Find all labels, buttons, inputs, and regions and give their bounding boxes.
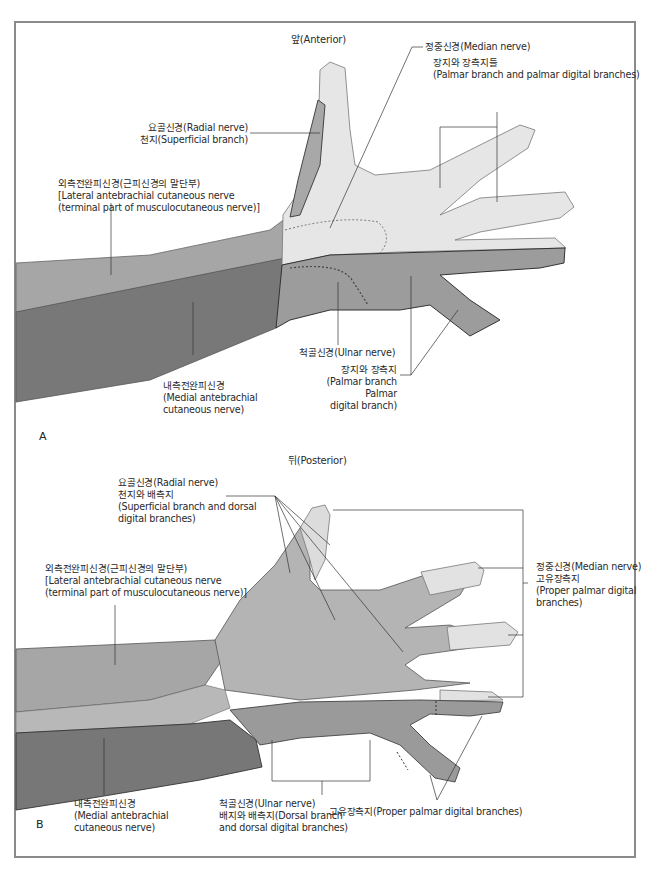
- label-ulnar-branches-a: 장지와 장측지 (Palmar branch Palmar digital br…: [297, 364, 397, 412]
- label-radial-nerve-a: 요골신경(Radial nerve) 천지(Superficial branch…: [130, 122, 248, 146]
- label-ulnar-proper-b: 고유장측지(Proper palmar digital branches): [329, 806, 522, 818]
- medial-antebrachial-zone-b: [16, 720, 262, 810]
- panel-letter-b: B: [36, 818, 44, 831]
- middle-tip-b: [447, 622, 518, 650]
- ulnar-zone-dorsum-b: [230, 700, 503, 782]
- label-median-branches-a: 장지와 장측지들 (Palmar branch and palmar digit…: [433, 57, 639, 81]
- label-medial-antebrachial-b: 내측전완피신경 (Medial antebrachial cutaneous n…: [74, 798, 168, 834]
- label-median-nerve-b: 정중신경(Median nerve) 고유장측지 (Proper palmar …: [536, 561, 641, 609]
- label-lateral-antebrachial-b: 외측전완피신경(근피신경의 말단부) [Lateral antebrachial…: [45, 563, 247, 599]
- posterior-hand: [16, 505, 518, 810]
- pinky-dashed-b: [397, 752, 408, 770]
- posterior-title: 뒤(Posterior): [288, 455, 347, 467]
- median-zone-palm-a: [282, 62, 574, 265]
- label-radial-nerve-b: 요골신경(Radial nerve) 천지와 배측지 (Superficial …: [118, 477, 256, 525]
- panel-letter-a: A: [39, 430, 47, 443]
- label-lateral-antebrachial-a: 외측전완피신경(근피신경의 말단부) [Lateral antebrachial…: [58, 178, 260, 214]
- label-median-nerve-a: 정중신경(Median nerve): [425, 41, 530, 53]
- anterior-hand: [16, 62, 574, 402]
- label-medial-antebrachial-a: 내측전완피신경 (Medial antebrachial cutaneous n…: [163, 380, 257, 416]
- anterior-title: 앞(Anterior): [291, 34, 346, 46]
- radial-zone-dorsum-b: [215, 525, 480, 700]
- ulnar-zone-a: [276, 248, 565, 336]
- ring-tip-b: [440, 690, 503, 701]
- label-ulnar-nerve-a: 척골신경(Ulnar nerve): [299, 347, 395, 359]
- index-tip-b: [421, 562, 484, 595]
- nerve-illustration: [0, 0, 651, 871]
